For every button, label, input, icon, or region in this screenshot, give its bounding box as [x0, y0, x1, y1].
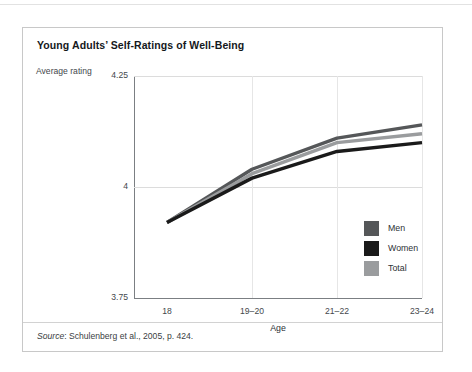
legend-label-men: Men	[388, 223, 405, 233]
source-label: Source	[37, 331, 64, 341]
legend-item-women: Women	[364, 238, 460, 258]
legend-item-total: Total	[364, 258, 460, 278]
y-tick-label: 3.75	[111, 292, 128, 302]
screenshot-page: Young Adults’ Self-Ratings of Well-Being…	[0, 0, 472, 372]
y-axis-caption: Average rating	[36, 66, 92, 76]
y-tick-label: 4	[123, 181, 128, 191]
x-tick-label: 21–22	[325, 306, 349, 316]
source-divider	[23, 322, 442, 323]
legend-swatch-men	[364, 221, 379, 236]
source-citation: : Schulenberg et al., 2005, p. 424.	[64, 331, 193, 341]
legend-swatch-total	[364, 261, 379, 276]
legend-label-women: Women	[388, 243, 418, 253]
figure-card: Young Adults’ Self-Ratings of Well-Being…	[22, 27, 443, 352]
source-note: Source: Schulenberg et al., 2005, p. 424…	[37, 331, 193, 341]
x-tick-label: 19–20	[240, 306, 264, 316]
y-tick-label: 4.25	[111, 70, 128, 80]
legend-item-men: Men	[364, 218, 460, 238]
x-tick-label: 23–24	[410, 306, 434, 316]
page-top-divider	[0, 4, 472, 5]
series-line-men	[167, 125, 422, 223]
figure-title: Young Adults’ Self-Ratings of Well-Being	[37, 39, 244, 51]
legend-label-total: Total	[388, 263, 407, 273]
legend-swatch-women	[364, 241, 379, 256]
x-tick-label: 18	[162, 306, 172, 316]
x-axis-title: Age	[270, 323, 286, 333]
chart-legend: MenWomenTotal	[364, 218, 460, 278]
